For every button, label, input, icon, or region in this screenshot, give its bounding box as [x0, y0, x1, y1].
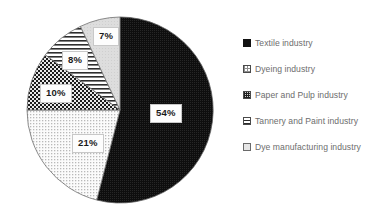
pie-label-paper-and-pulp-industry: 10%: [40, 84, 72, 103]
pie-label-textile-industry: 54%: [150, 104, 182, 123]
chart-legend: Textile industry Dyeing industry Paper a…: [243, 30, 380, 160]
pie-label-dyeing-industry: 21%: [72, 134, 104, 153]
legend-label: Textile industry: [255, 39, 313, 48]
horizontal-lines-swatch-icon: [243, 117, 251, 125]
pie-plot-area: 54% 21% 10% 8% 7%: [0, 0, 240, 218]
legend-item-tannery-and-paint-industry[interactable]: Tannery and Paint industry: [243, 108, 380, 134]
legend-item-dyeing-industry[interactable]: Dyeing industry: [243, 56, 380, 82]
legend-label: Paper and Pulp industry: [255, 91, 348, 100]
pie-svg: [0, 0, 240, 218]
fine-dots-swatch-icon: [243, 65, 251, 73]
pie-label-dye-manufacturing-industry: 7%: [93, 27, 119, 46]
legend-item-paper-and-pulp-industry[interactable]: Paper and Pulp industry: [243, 82, 380, 108]
legend-label: Dyeing industry: [255, 65, 315, 74]
legend-item-textile-industry[interactable]: Textile industry: [243, 30, 380, 56]
legend-item-dye-manufacturing-industry[interactable]: Dye manufacturing industry: [243, 134, 380, 160]
solid-black-swatch-icon: [243, 39, 251, 47]
light-gray-swatch-icon: [243, 143, 251, 151]
pie-chart-figure: 54% 21% 10% 8% 7% Textile industry Dyein…: [0, 0, 380, 218]
pie-label-tannery-and-paint-industry: 8%: [62, 51, 88, 70]
legend-label: Tannery and Paint industry: [255, 117, 358, 126]
dense-checker-swatch-icon: [243, 91, 251, 99]
legend-label: Dye manufacturing industry: [255, 143, 361, 152]
